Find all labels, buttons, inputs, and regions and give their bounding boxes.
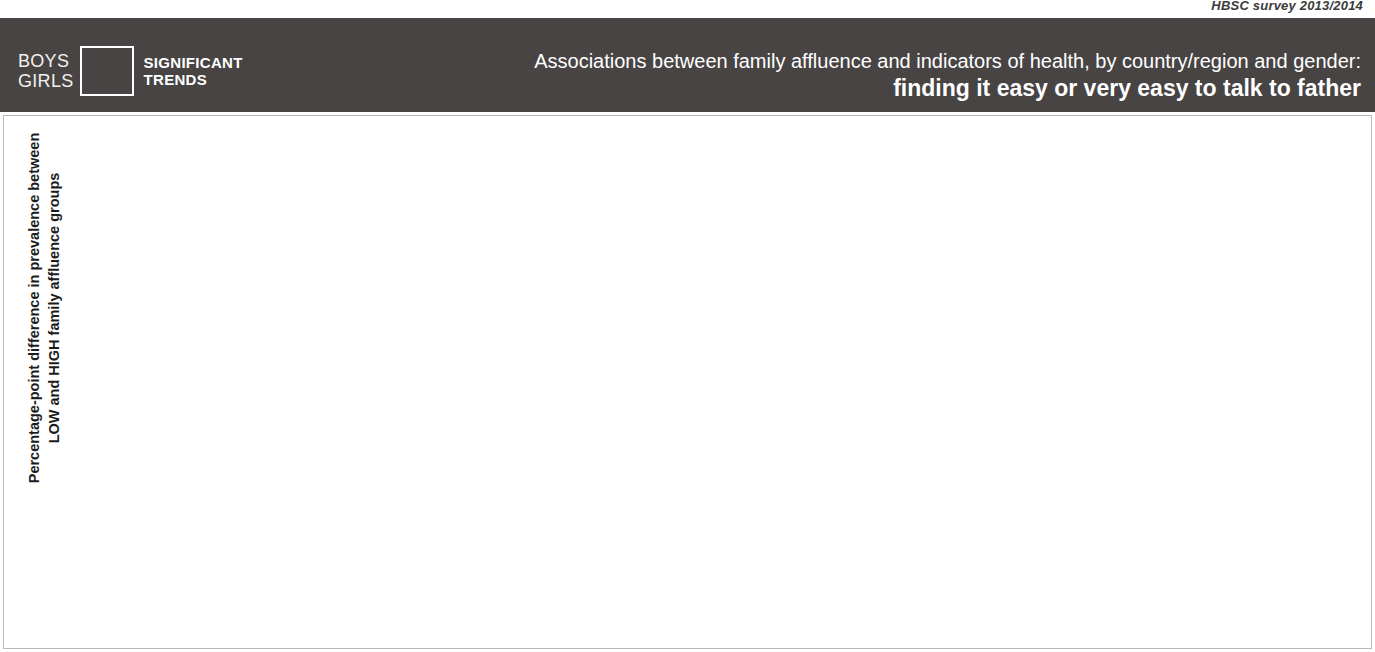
chart-page: HBSC survey 2013/2014 BOYS GIRLS SIGNIFI… — [0, 0, 1375, 652]
bar-series — [112, 128, 1280, 486]
legend-swatch-boys-nonsignificant — [84, 50, 106, 70]
chart-header: BOYS GIRLS SIGNIFICANT TRENDS Associatio… — [0, 18, 1375, 112]
legend-trend-caption: SIGNIFICANT TRENDS — [144, 54, 243, 88]
legend-swatch-boys-significant — [108, 50, 130, 70]
legend-swatch-girls-significant — [108, 73, 130, 93]
legend-boys-label: BOYS — [18, 51, 74, 71]
chart-title-line1: Associations between family affluence an… — [341, 48, 1361, 74]
legend-swatch-girls-nonsignificant — [84, 73, 106, 93]
legend-trend-line2: TRENDS — [144, 71, 243, 88]
legend-girls-label: GIRLS — [18, 71, 74, 91]
legend-trend-line1: SIGNIFICANT — [144, 54, 243, 71]
survey-label: HBSC survey 2013/2014 — [1211, 0, 1363, 13]
survey-strip: HBSC survey 2013/2014 — [0, 0, 1375, 18]
y-axis-title-text: Percentage-point difference in prevalenc… — [24, 128, 64, 488]
chart-title-line2: finding it easy or very easy to talk to … — [341, 74, 1361, 103]
legend-gender-labels: BOYS GIRLS — [18, 51, 74, 91]
chart-title: Associations between family affluence an… — [341, 48, 1361, 103]
legend: BOYS GIRLS SIGNIFICANT TRENDS — [18, 46, 243, 96]
legend-swatch-grid — [80, 46, 134, 96]
y-axis-title: Percentage-point difference in prevalenc… — [22, 130, 66, 490]
x-axis-labels — [112, 490, 1280, 648]
plot-area — [112, 128, 1280, 486]
